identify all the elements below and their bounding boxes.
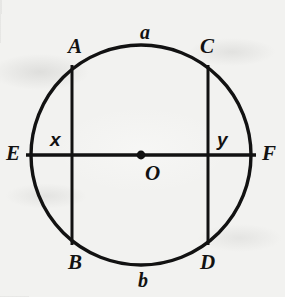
point-label-D: D: [200, 252, 215, 273]
arc-label-b: b: [138, 270, 148, 290]
segment-label-x: x: [50, 130, 61, 149]
segment-label-y: y: [217, 130, 228, 149]
circle-diagram-canvas: [0, 0, 285, 297]
arc-label-a: a: [140, 22, 150, 42]
point-label-E: E: [6, 143, 20, 164]
point-label-A: A: [68, 36, 82, 57]
point-label-B: B: [68, 252, 82, 273]
geometry-figure: a A C E x y F O B D b: [0, 0, 285, 297]
center-label-O: O: [145, 163, 160, 184]
point-label-F: F: [262, 143, 276, 164]
point-label-C: C: [200, 36, 214, 57]
center-point-dot: [137, 151, 146, 160]
